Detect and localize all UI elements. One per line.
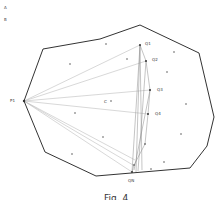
convex-hull-diagram: [0, 0, 221, 200]
figure-caption: Fig. 4: [104, 193, 128, 200]
label-q3: Q3: [157, 88, 163, 92]
label-q4: Q4: [155, 112, 161, 116]
chords: [132, 45, 150, 172]
label-c: C: [104, 100, 107, 104]
label-p1: P1: [10, 99, 15, 103]
hull-polygon: [24, 25, 214, 176]
label-qn: QN: [128, 179, 134, 183]
label-q1: Q1: [145, 42, 151, 46]
label-q2: Q2: [152, 58, 158, 62]
rays-from-p1: [24, 45, 150, 172]
